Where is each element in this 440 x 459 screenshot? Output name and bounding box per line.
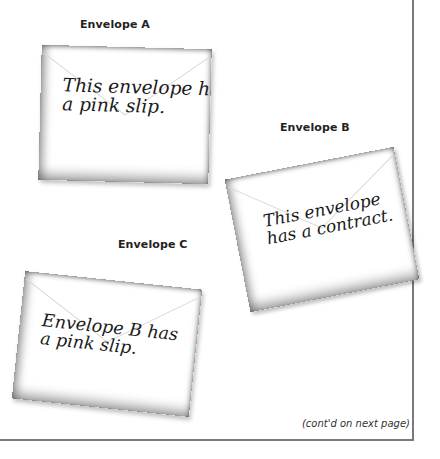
envelope-b: This envelope has a contract.	[225, 147, 420, 312]
envelope-b-label: Envelope B	[280, 121, 350, 134]
envelope-c-label: Envelope C	[118, 238, 188, 251]
envelope-c: Envelope B has a pink slip.	[12, 271, 202, 417]
frame-right-border	[412, 0, 414, 441]
envelope-a: This envelope has a pink slip.	[38, 45, 211, 184]
frame-bottom-border	[0, 439, 414, 441]
envelope-a-message: This envelope has a pink slip.	[62, 75, 212, 118]
continued-note: (cont'd on next page)	[302, 418, 410, 429]
envelope-a-label: Envelope A	[80, 18, 150, 31]
